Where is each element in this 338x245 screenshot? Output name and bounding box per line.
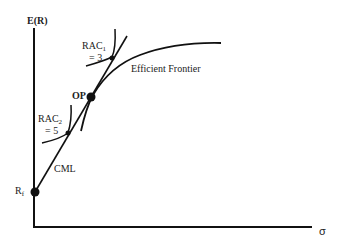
op-point xyxy=(87,93,96,102)
rf-label-main: R xyxy=(15,185,22,196)
rac2-label-sub: 2 xyxy=(59,118,63,126)
rac2-point xyxy=(66,131,71,136)
rf-point xyxy=(31,188,40,197)
rac2-label-main: RAC xyxy=(38,113,59,124)
efficient-frontier-label: Efficient Frontier xyxy=(131,64,201,74)
x-axis-label: σ xyxy=(319,226,326,237)
rac1-value: = 3 xyxy=(89,53,102,63)
rf-label: Rf xyxy=(15,186,24,198)
cml-diagram: E(R) σ RAC1 = 3 RAC2 = 5 OP Efficient Fr… xyxy=(0,0,338,245)
op-label: OP xyxy=(72,91,86,101)
rf-label-sub: f xyxy=(22,190,24,198)
y-axis-label: E(R) xyxy=(27,16,48,26)
rac1-point xyxy=(110,56,115,61)
rac2-value: = 5 xyxy=(45,126,58,136)
rac1-label-sub: 1 xyxy=(103,45,107,53)
cml-label: CML xyxy=(54,164,76,174)
rac1-label-main: RAC xyxy=(82,40,103,51)
